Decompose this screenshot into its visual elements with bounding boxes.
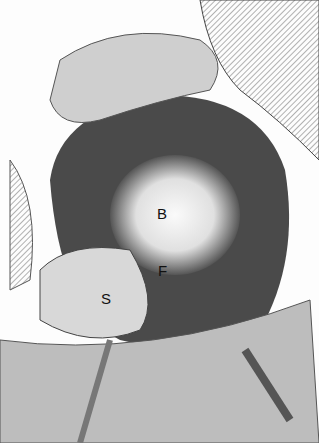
label-f: F bbox=[158, 262, 167, 279]
tissue-left bbox=[10, 160, 33, 290]
label-b: B bbox=[157, 205, 167, 222]
label-s: S bbox=[101, 290, 111, 307]
structure-s bbox=[40, 248, 148, 339]
illustration: B F S bbox=[0, 0, 319, 443]
